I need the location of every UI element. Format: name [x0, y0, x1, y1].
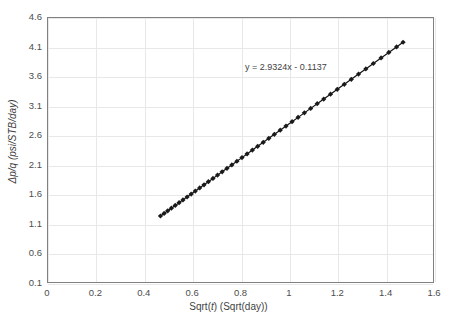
gridline-vertical: [435, 18, 436, 282]
x-axis-tick-label: 1: [269, 288, 309, 298]
y-axis-tick-label: 1.1: [2, 219, 42, 229]
x-axis-title: Sqrt(t) (Sqrt(day)): [0, 301, 457, 312]
x-axis-tick-label: 0.4: [124, 288, 164, 298]
y-axis-tick-label: 1.6: [2, 189, 42, 199]
y-axis-tick-label: 4.6: [2, 12, 42, 22]
y-axis-tick-label: 0.1: [2, 278, 42, 288]
gridline-horizontal: [48, 284, 433, 285]
data-series: [48, 18, 435, 284]
x-axis-tick-label: 0.8: [221, 288, 261, 298]
x-axis-tick-label: 0.2: [75, 288, 115, 298]
y-axis-tick-label: 3.6: [2, 71, 42, 81]
y-axis-tick-label: 2.6: [2, 130, 42, 140]
y-axis-title-text: Δp/q (psi/STB/day): [8, 100, 19, 184]
x-axis-tick-label: 1.6: [414, 288, 454, 298]
y-axis-tick-label: 0.6: [2, 248, 42, 258]
x-axis-title-suffix: ) (Sqrt(day)): [214, 301, 268, 312]
x-axis-tick-label: 0.6: [172, 288, 212, 298]
x-axis-title-prefix: Sqrt(: [189, 301, 211, 312]
y-axis-tick-label: 2.1: [2, 160, 42, 170]
x-axis-tick-label: 1.2: [317, 288, 357, 298]
chart-figure: Δp/q (psi/STB/day) 0.10.61.11.62.12.63.1…: [0, 0, 457, 326]
x-axis-tick-label: 0: [27, 288, 67, 298]
y-axis-tick-label: 4.1: [2, 42, 42, 52]
x-axis-tick-label: 1.4: [366, 288, 406, 298]
trendline-equation-annotation: y = 2.9324x - 0.1137: [245, 62, 327, 72]
plot-area: [47, 17, 434, 283]
y-axis-tick-label: 3.1: [2, 101, 42, 111]
